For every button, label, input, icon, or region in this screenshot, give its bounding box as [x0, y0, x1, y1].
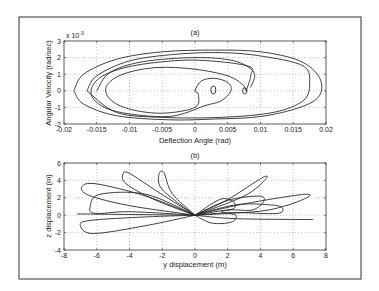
plot-b-xlabel: y displacement (m) — [163, 260, 227, 269]
figure-frame — [19, 17, 361, 279]
y-tick-label: 2 — [57, 54, 61, 61]
x-tick-label: -4 — [126, 252, 132, 259]
y-tick-label: 1 — [57, 71, 61, 78]
x-tick-label: -0.015 — [87, 126, 107, 133]
x-tick-label: 0.015 — [284, 126, 302, 133]
y-tick-label: -4 — [55, 247, 61, 254]
x-tick-label: 6 — [291, 252, 295, 259]
plot-b-ylabel: z displacement (m) — [44, 174, 53, 238]
y-tick-label: 2 — [57, 194, 61, 201]
plot-a-title: (a) — [190, 28, 200, 37]
plot-b-title: (b) — [190, 151, 200, 160]
figure: -0.02-0.015-0.01-0.00500.0050.010.0150.0… — [0, 0, 379, 291]
y-tick-label: -2 — [55, 229, 61, 236]
x-tick-label: -6 — [94, 252, 100, 259]
x-tick-label: -2 — [159, 252, 165, 259]
x-tick-label: 4 — [259, 252, 263, 259]
x-tick-label: 0 — [193, 252, 197, 259]
x-tick-label: 8 — [324, 252, 328, 259]
y-tick-label: 3 — [57, 38, 61, 45]
plot-a-ylabel: Angular Velocity (rad/sec) — [44, 40, 53, 126]
y-tick-label: -2 — [55, 121, 61, 128]
x-tick-label: 0.02 — [319, 126, 333, 133]
y-tick-label: 0 — [57, 87, 61, 94]
x-tick-label: 0 — [193, 126, 197, 133]
y-tick-label: 0 — [57, 212, 61, 219]
y-tick-label: 6 — [57, 160, 61, 167]
x-tick-label: 0.005 — [219, 126, 237, 133]
plot-a-xlabel: Deflection Angle (rad) — [159, 136, 232, 145]
y-tick-label: -1 — [55, 104, 61, 111]
x-tick-label: -8 — [61, 252, 67, 259]
x-tick-label: -0.005 — [152, 126, 172, 133]
x-tick-label: -0.01 — [122, 126, 138, 133]
x-tick-label: 2 — [226, 252, 230, 259]
x-tick-label: 0.01 — [254, 126, 268, 133]
y-tick-label: 4 — [57, 177, 61, 184]
